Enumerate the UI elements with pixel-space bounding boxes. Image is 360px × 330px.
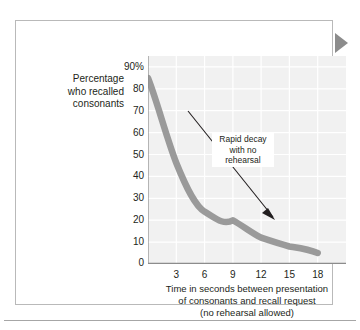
- figure-frame: Percentage who recalled consonants: [15, 20, 333, 305]
- x-tick-label: 9: [230, 270, 236, 280]
- y-axis-title-line-3: consonants: [38, 98, 124, 111]
- x-axis-title-line-1: Time in seconds between presentation: [144, 283, 350, 295]
- y-tick-label: 60: [133, 128, 144, 138]
- page-divider: [4, 320, 356, 321]
- x-axis-title-line-2: of consonants and recall request: [144, 295, 350, 307]
- triangle-right-icon: [335, 33, 348, 53]
- y-tick-label: 10: [133, 237, 144, 247]
- y-tick-label: 50: [133, 150, 144, 160]
- y-tick-label: 30: [133, 193, 144, 203]
- annotation-line-2: with no: [214, 145, 272, 156]
- annotation-line-1: Rapid decay: [214, 134, 272, 145]
- y-tick-label: 90%: [124, 62, 144, 72]
- y-axis-title-line-2: who recalled: [38, 86, 124, 99]
- y-tick-label: 80: [133, 84, 144, 94]
- y-axis-title-line-1: Percentage: [38, 73, 124, 86]
- y-axis-title: Percentage who recalled consonants: [38, 73, 124, 111]
- y-tick-label: 40: [133, 171, 144, 181]
- y-tick-label: 0: [138, 258, 144, 268]
- x-tick-label: 6: [202, 270, 208, 280]
- annotation-label: Rapid decay with no rehearsal: [212, 133, 274, 167]
- x-tick-label: 3: [174, 270, 180, 280]
- y-tick-label: 70: [133, 106, 144, 116]
- x-tick-label: 18: [312, 270, 323, 280]
- x-axis-title-line-3: (no rehearsal allowed): [144, 307, 350, 319]
- x-axis-title: Time in seconds between presentation of …: [144, 283, 350, 319]
- x-tick-label: 15: [284, 270, 295, 280]
- annotation-line-3: rehearsal: [214, 155, 272, 166]
- y-tick-label: 20: [133, 215, 144, 225]
- x-tick-label: 12: [256, 270, 267, 280]
